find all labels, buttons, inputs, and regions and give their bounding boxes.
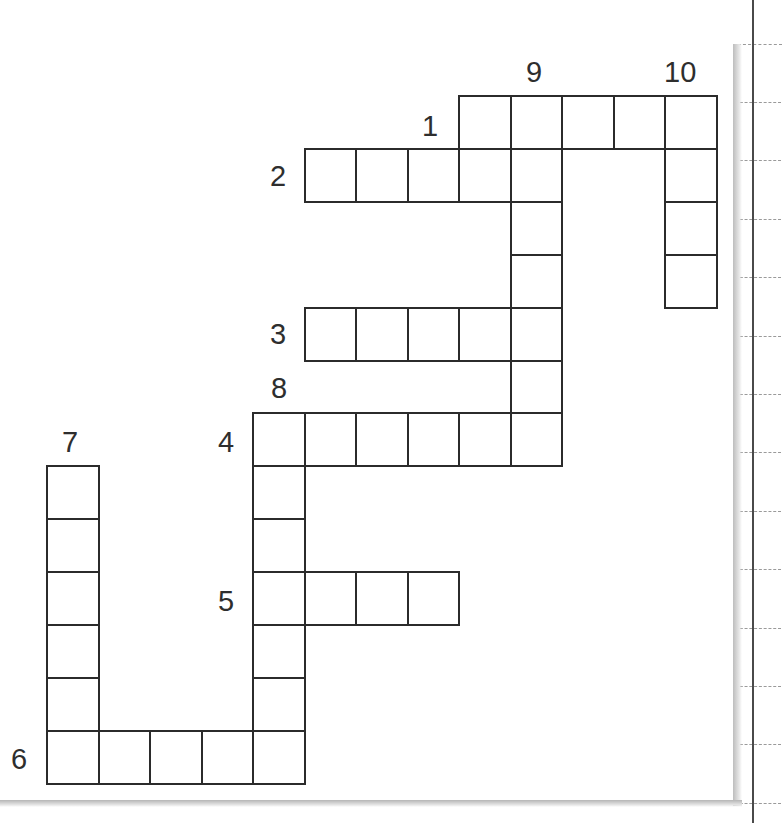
crossword-cell[interactable] (252, 730, 306, 785)
crossword-cell[interactable] (561, 95, 615, 150)
crossword-cell[interactable] (458, 412, 512, 467)
crossword-cell[interactable] (46, 730, 100, 785)
crossword-cell[interactable] (510, 95, 563, 150)
crossword-cell[interactable] (355, 148, 409, 203)
clue-number-6: 6 (11, 745, 27, 774)
notebook-margin-line (752, 0, 754, 823)
paper-shadow-right (733, 44, 742, 806)
crossword-cell[interactable] (458, 307, 512, 362)
crossword-cell[interactable] (252, 677, 306, 732)
crossword-cell[interactable] (407, 307, 460, 362)
crossword-cell[interactable] (149, 730, 203, 785)
clue-number-10: 10 (664, 58, 696, 87)
crossword-cell[interactable] (46, 518, 100, 573)
clue-number-4: 4 (218, 428, 234, 457)
crossword-cell[interactable] (304, 148, 357, 203)
crossword-cell[interactable] (458, 95, 512, 150)
crossword-cell[interactable] (664, 201, 718, 256)
crossword-cell[interactable] (252, 465, 306, 520)
crossword-cell[interactable] (407, 412, 460, 467)
crossword-cell[interactable] (98, 730, 151, 785)
crossword-cell[interactable] (46, 571, 100, 626)
crossword-cell[interactable] (252, 412, 306, 467)
crossword-cell[interactable] (355, 571, 409, 626)
crossword-cell[interactable] (510, 412, 563, 467)
crossword-cell[interactable] (664, 254, 718, 309)
crossword-cell[interactable] (458, 148, 512, 203)
crossword-cell[interactable] (355, 412, 409, 467)
crossword-cell[interactable] (664, 148, 718, 203)
crossword-cell[interactable] (510, 254, 563, 309)
crossword-cell[interactable] (304, 412, 357, 467)
crossword-cell[interactable] (46, 465, 100, 520)
crossword-cell[interactable] (252, 571, 306, 626)
clue-number-2: 2 (270, 162, 286, 191)
clue-number-9: 9 (526, 58, 542, 87)
crossword-cell[interactable] (201, 730, 254, 785)
crossword-cell[interactable] (252, 624, 306, 679)
crossword-cell[interactable] (664, 95, 718, 150)
crossword-cell[interactable] (510, 307, 563, 362)
crossword-paper: 91012387456 (0, 0, 733, 800)
clue-number-1: 1 (422, 112, 438, 141)
crossword-cell[interactable] (304, 571, 357, 626)
crossword-cell[interactable] (407, 148, 460, 203)
clue-number-3: 3 (270, 320, 286, 349)
crossword-cell[interactable] (46, 624, 100, 679)
clue-number-5: 5 (218, 587, 234, 616)
paper-shadow-bottom (0, 800, 742, 807)
crossword-cell[interactable] (510, 148, 563, 203)
crossword-cell[interactable] (355, 307, 409, 362)
crossword-cell[interactable] (510, 360, 563, 414)
clue-number-7: 7 (62, 428, 78, 457)
crossword-cell[interactable] (252, 518, 306, 573)
crossword-cell[interactable] (613, 95, 666, 150)
crossword-cell[interactable] (46, 677, 100, 732)
crossword-cell[interactable] (407, 571, 460, 626)
crossword-cell[interactable] (304, 307, 357, 362)
crossword-cell[interactable] (510, 201, 563, 256)
clue-number-8: 8 (271, 374, 287, 403)
